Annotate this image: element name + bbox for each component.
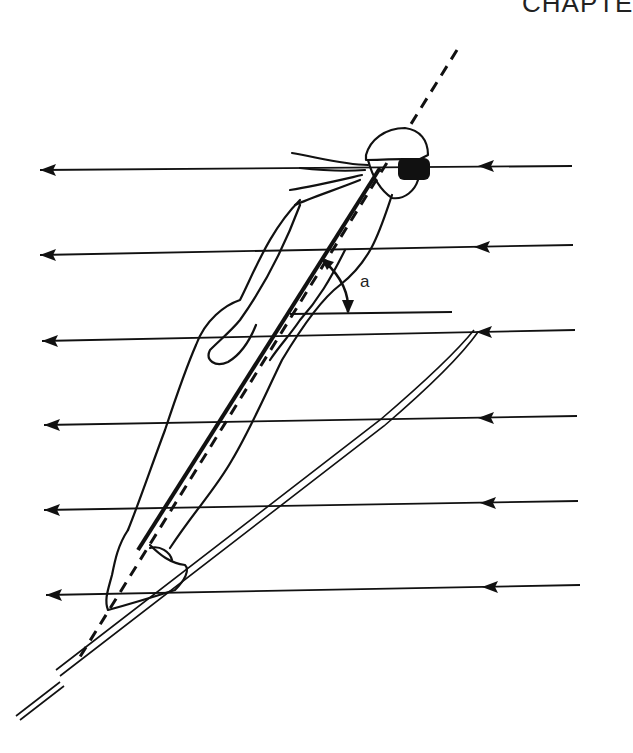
body-axis-line — [138, 168, 380, 550]
angle-a-label: a — [360, 272, 369, 292]
airflow-line-4 — [44, 412, 577, 431]
airflow-lines — [40, 160, 580, 601]
airflow-line-2 — [40, 241, 573, 261]
airflow-line-3 — [42, 326, 575, 347]
ski — [16, 330, 478, 720]
airflow-line-5 — [44, 497, 578, 516]
